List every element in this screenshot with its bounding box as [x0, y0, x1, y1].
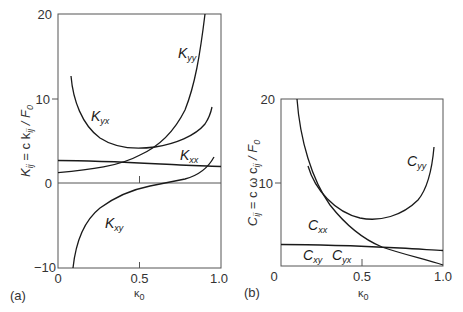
curve-kxy	[73, 157, 214, 268]
label-cyx: Cyx	[332, 247, 352, 265]
figure: 20 10 0 −10 0 0.5 1.0 κ0 Kij = c kij / F…	[0, 0, 463, 312]
panel-a-xtick-label-10: 1.0	[210, 271, 228, 286]
panel-b-ytick-label-10: 10	[259, 176, 273, 191]
panel-b-label: (b)	[244, 285, 260, 300]
label-cyy: Cyy	[407, 153, 427, 171]
panel-a-ytick-label-0: 0	[45, 176, 52, 191]
panel-a-xlabel: κ0	[134, 287, 145, 302]
panel-a-ytick-label-20: 20	[38, 7, 52, 22]
label-kxx: Kxx	[180, 147, 199, 165]
panel-a-label: (a)	[10, 288, 26, 303]
panel-a-xtick-label-05: 0.5	[130, 271, 148, 286]
panel-b-xtick-label-10: 1.0	[434, 269, 452, 284]
label-kxy: Kxy	[105, 215, 124, 233]
panel-a-xtick-label-0: 0	[54, 271, 61, 286]
panel-b-xlabel: κ0	[358, 287, 369, 302]
panel-a: 20 10 0 −10 0 0.5 1.0 κ0 Kij = c kij / F…	[10, 7, 228, 303]
panel-b-ytick-label-20: 20	[261, 92, 275, 107]
label-kyx: Kyx	[91, 108, 110, 126]
label-cxx: Cxx	[308, 217, 328, 235]
panel-b-xtick-label-0: 0	[270, 269, 277, 284]
panel-b: 20 10 0 0.5 1.0 κ0 Cij = c ω cij / F0 (b…	[244, 92, 452, 302]
panel-b-ylabel: Cij = c ω cij / F0	[245, 140, 262, 226]
panel-a-ytick-label-neg10: −10	[34, 260, 56, 275]
panel-a-ytick-label-10: 10	[36, 92, 50, 107]
panel-b-axes-frame	[281, 99, 443, 266]
label-cxy: Cxy	[303, 247, 323, 265]
panel-b-xtick-label-05: 0.5	[353, 269, 371, 284]
label-kyy: Kyy	[178, 45, 197, 63]
panel-a-ylabel: Kij = c kij / F0	[18, 105, 35, 177]
curve-cxx	[297, 99, 443, 265]
